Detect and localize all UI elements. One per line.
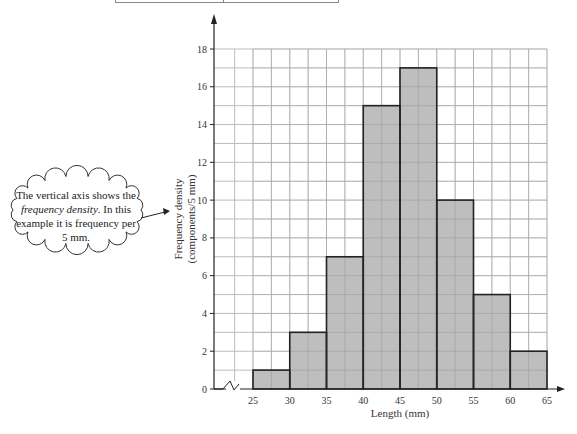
x-tick-label: 40 [358, 395, 368, 406]
y-axis-arrow-icon [211, 14, 217, 24]
y-tick-label: 14 [197, 119, 207, 130]
x-tick-label: 30 [285, 395, 295, 406]
y-tick-label: 10 [197, 195, 207, 206]
callout-pointer [141, 212, 165, 218]
y-tick-label: 0 [202, 384, 207, 395]
x-axis-arrow-icon [557, 386, 565, 392]
annotation-text-before: The vertical axis shows the [16, 189, 136, 201]
y-tick-label: 18 [197, 44, 207, 55]
y-axis-label-line1: Frequency density [172, 178, 184, 259]
x-axis-label: Length (mm) [371, 407, 430, 420]
annotation-text-italic: frequency density [21, 203, 98, 215]
x-tick-label: 25 [248, 395, 258, 406]
x-tick-label: 60 [505, 395, 515, 406]
y-tick-label: 4 [202, 308, 207, 319]
y-tick-label: 6 [202, 270, 207, 281]
annotation-callout: The vertical axis shows the frequency de… [14, 188, 138, 244]
callout-arrow-icon [163, 208, 170, 215]
x-tick-label: 55 [469, 395, 479, 406]
y-tick-label: 12 [197, 157, 207, 168]
x-tick-label: 50 [432, 395, 442, 406]
x-tick-label: 45 [395, 395, 405, 406]
x-tick-label: 65 [542, 395, 552, 406]
y-axis-label-line2: (components/5 mm) [185, 174, 198, 263]
y-tick-label: 8 [202, 232, 207, 243]
x-tick-label: 35 [322, 395, 332, 406]
y-tick-label: 16 [197, 81, 207, 92]
y-tick-label: 2 [202, 346, 207, 357]
